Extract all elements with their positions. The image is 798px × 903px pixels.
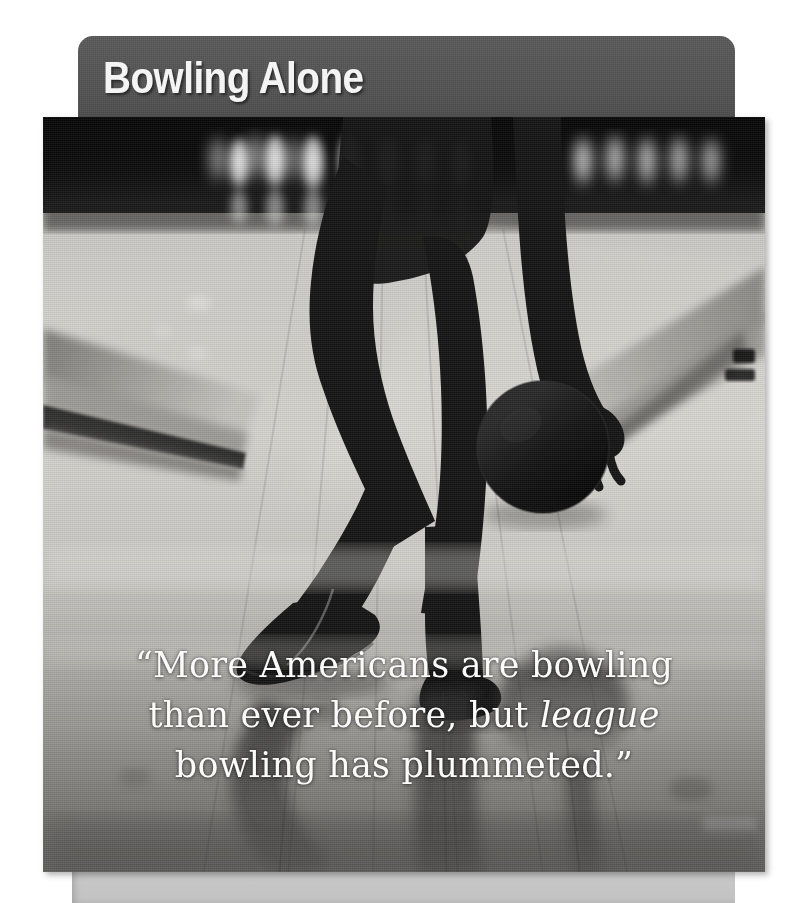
page-root: Bowling Alone bbox=[0, 0, 798, 903]
photo-illustration bbox=[43, 117, 765, 872]
bowling-ball bbox=[477, 381, 609, 513]
bowler-silhouette-photo bbox=[43, 117, 765, 872]
header-bar: Bowling Alone bbox=[78, 36, 735, 122]
page-title: Bowling Alone bbox=[103, 55, 364, 101]
bowling-pins-far bbox=[207, 133, 304, 186]
